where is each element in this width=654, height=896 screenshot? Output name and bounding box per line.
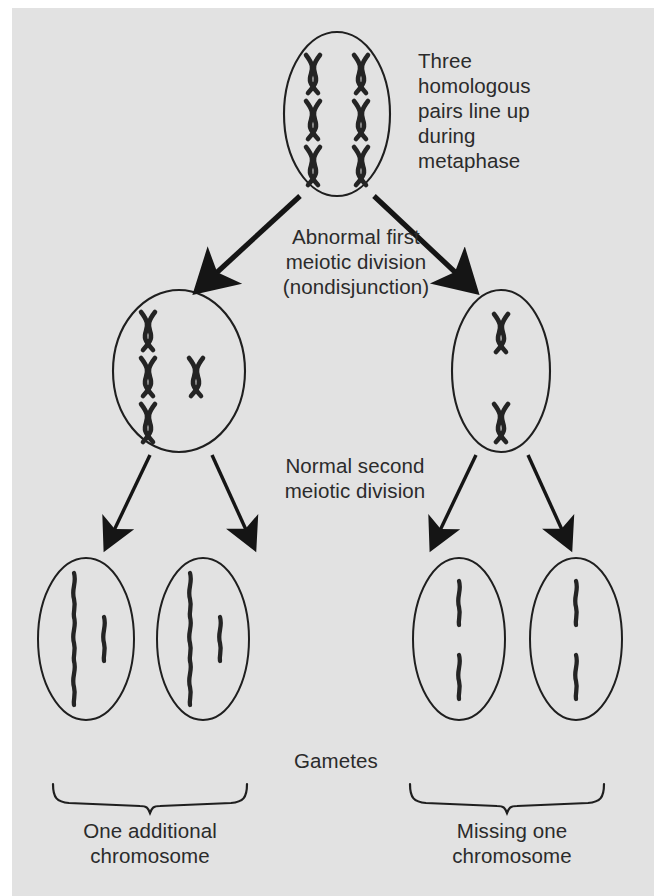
chromosome-x	[354, 55, 368, 93]
label-first-meiotic-division: Abnormal first meiotic division (nondisj…	[246, 224, 466, 299]
chromosome-rod	[103, 617, 105, 661]
chromosome-rod	[189, 573, 191, 617]
chromosome-rod	[73, 617, 75, 661]
cell-daughter-right-outline	[452, 290, 550, 452]
chromosome-x	[141, 404, 155, 442]
chromosome-rod	[219, 617, 221, 661]
cell-daughter-left-outline	[113, 290, 245, 452]
cell-gamete-1-outline	[38, 558, 134, 720]
label-metaphase: Three homologous pairs line up during me…	[418, 48, 531, 173]
chromosome-x	[354, 101, 368, 139]
chromosome-rod	[73, 573, 75, 617]
cell-outlines	[38, 32, 622, 720]
label-one-additional-chromosome: One additional chromosome	[50, 818, 250, 868]
chromosome-rod	[458, 581, 460, 625]
chromosome-rod	[189, 661, 191, 705]
cell-parent-outline	[284, 32, 390, 196]
chromosome-rod	[458, 655, 460, 699]
grouping-braces	[53, 784, 604, 813]
label-second-meiotic-division: Normal second meiotic division	[250, 453, 460, 503]
chromosome-rod	[575, 655, 577, 699]
cell-gamete-2-outline	[157, 558, 249, 720]
arrow-left-daughter-to-gamete-2	[212, 455, 252, 543]
chromosome-x	[354, 147, 368, 185]
chromosome-x	[141, 358, 155, 396]
nondisjunction-diagram: Three homologous pairs line up during me…	[0, 0, 654, 896]
chromosome-x	[306, 101, 320, 139]
brace-left	[53, 784, 247, 813]
chromosome-x	[494, 314, 508, 352]
rod-chromosomes	[73, 573, 577, 705]
chromosome-x	[306, 147, 320, 185]
chromosome-x	[306, 55, 320, 93]
chromosome-rod	[189, 617, 191, 661]
chromosome-x	[494, 404, 508, 442]
label-missing-one-chromosome: Missing one chromosome	[412, 818, 612, 868]
chromosome-rod	[575, 581, 577, 625]
label-gametes: Gametes	[266, 748, 406, 773]
arrow-left-daughter-to-gamete-1	[108, 455, 150, 543]
chromosome-x	[141, 312, 155, 350]
brace-right	[410, 784, 604, 813]
chromosome-rod	[73, 661, 75, 705]
chromosome-x	[189, 358, 203, 396]
arrow-right-daughter-to-gamete-4	[528, 455, 568, 543]
